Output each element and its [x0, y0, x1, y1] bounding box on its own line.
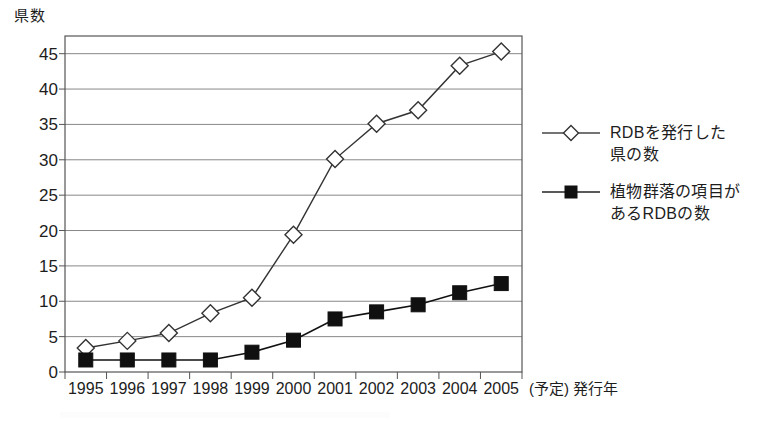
x-axis-title: (予定) 発行年 — [529, 381, 618, 396]
x-tick-label: 1998 — [193, 381, 229, 397]
legend-entry: RDBを発行した 県の数 — [540, 122, 778, 165]
x-tick-label: 2001 — [317, 381, 353, 397]
x-tick-label: 1999 — [234, 381, 270, 397]
chart-figure: 県数 051015202530354045 199519961997199819… — [0, 0, 783, 424]
legend-label: 植物群落の項目が あるRDBの数 — [610, 181, 778, 224]
scan-artifact — [60, 412, 390, 418]
x-tick-label: 1996 — [110, 381, 146, 397]
x-tick-label: 2003 — [400, 381, 436, 397]
legend-entry: 植物群落の項目が あるRDBの数 — [540, 181, 778, 224]
legend-label: RDBを発行した 県の数 — [610, 122, 778, 165]
x-tick-label: 2002 — [359, 381, 395, 397]
x-tick-label: 1997 — [151, 381, 187, 397]
square-filled-icon — [540, 183, 602, 201]
x-tick-label: 2005 — [483, 381, 519, 397]
chart-legend: RDBを発行した 県の数 植物群落の項目が あるRDBの数 — [540, 122, 778, 240]
x-tick-label: 2004 — [442, 381, 478, 397]
diamond-open-icon — [540, 124, 602, 142]
x-tick-label: 1995 — [68, 381, 104, 397]
x-tick-label: 2000 — [276, 381, 312, 397]
